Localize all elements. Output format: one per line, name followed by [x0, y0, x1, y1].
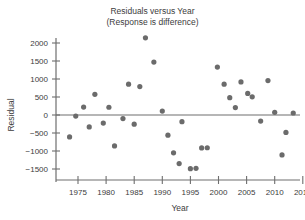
data-point	[120, 116, 125, 121]
data-point	[199, 145, 204, 150]
data-point	[160, 108, 165, 113]
data-point	[193, 166, 198, 171]
data-point	[258, 119, 263, 124]
data-point	[179, 119, 184, 124]
x-tick-label: 2015	[294, 188, 305, 197]
data-point	[177, 161, 182, 166]
x-tick-label: 1985	[125, 188, 143, 197]
data-point	[227, 95, 232, 100]
data-point	[245, 91, 250, 96]
data-point	[250, 94, 255, 99]
scatter-plot: −1500−1000−5000500100015002000 197519801…	[0, 0, 305, 220]
x-tick-label: 1980	[97, 188, 115, 197]
x-tick-label: 2000	[210, 188, 228, 197]
data-point	[165, 133, 170, 138]
data-point	[92, 92, 97, 97]
data-point	[291, 110, 296, 115]
y-tick-label: 500	[35, 93, 49, 102]
x-axis-label: Year	[171, 203, 188, 213]
y-tick-label: −1000	[26, 147, 49, 156]
x-tick-label: 1995	[182, 188, 200, 197]
y-tick-label: 0	[44, 111, 49, 120]
y-axis-tick-labels: −1500−1000−5000500100015002000	[26, 39, 49, 174]
x-axis-tick-labels: 197519801985199019952000200520102015	[69, 188, 305, 197]
y-axis-label: Residual	[6, 98, 16, 131]
data-point	[106, 105, 111, 110]
y-tick-label: 1000	[30, 75, 48, 84]
data-point	[283, 130, 288, 135]
data-point	[81, 104, 86, 109]
y-tick-label: 1500	[30, 57, 48, 66]
chart-container: Residuals versus Year (Response is diffe…	[0, 0, 305, 220]
y-tick-label: 2000	[30, 39, 48, 48]
data-point	[87, 124, 92, 129]
x-tick-label: 2010	[266, 188, 284, 197]
data-point	[137, 84, 142, 89]
x-tick-label: 1990	[153, 188, 171, 197]
data-point	[265, 78, 270, 83]
data-point	[67, 134, 72, 139]
data-point	[279, 152, 284, 157]
data-point	[238, 79, 243, 84]
data-point	[233, 105, 238, 110]
data-point	[101, 121, 106, 126]
x-tick-label: 2005	[238, 188, 256, 197]
data-point	[132, 122, 137, 127]
data-point	[215, 65, 220, 70]
data-point	[205, 145, 210, 150]
data-point	[171, 150, 176, 155]
data-point	[143, 35, 148, 40]
data-point	[151, 59, 156, 64]
x-tick-label: 1975	[69, 188, 87, 197]
data-point	[112, 143, 117, 148]
data-point	[222, 82, 227, 87]
data-point	[73, 113, 78, 118]
data-point	[126, 82, 131, 87]
y-tick-label: −500	[30, 129, 49, 138]
y-tick-label: −1500	[26, 165, 49, 174]
data-point	[188, 166, 193, 171]
data-point	[272, 110, 277, 115]
data-points	[67, 35, 296, 171]
